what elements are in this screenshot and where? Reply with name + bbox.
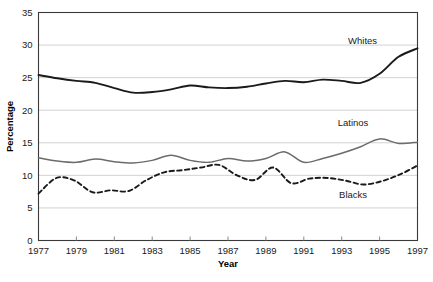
y-axis-tick-label: 35 <box>22 7 33 18</box>
x-axis-tick-label: 1989 <box>255 245 276 256</box>
x-axis-tick-label: 1997 <box>407 245 428 256</box>
y-axis-tick-label: 30 <box>22 39 33 50</box>
y-axis-tick-label: 25 <box>22 72 33 83</box>
x-axis-tick-label: 1991 <box>293 245 314 256</box>
y-axis-title: Percentage <box>4 101 15 152</box>
series-label-latinos: Latinos <box>338 117 369 128</box>
y-axis-tick-label: 10 <box>22 170 33 181</box>
y-axis-tick-label: 20 <box>22 105 33 116</box>
x-axis-tick-label: 1983 <box>142 245 163 256</box>
x-axis-tick-label: 1985 <box>180 245 201 256</box>
x-axis-tick-label: 1977 <box>28 245 49 256</box>
x-axis-tick-label: 1981 <box>104 245 125 256</box>
x-axis-tick-label: 1987 <box>217 245 238 256</box>
chart-canvas: 0510152025303519771979198119831985198719… <box>0 0 433 282</box>
x-axis-tick-label: 1995 <box>369 245 390 256</box>
y-axis-tick-label: 5 <box>27 202 32 213</box>
x-axis-tick-label: 1993 <box>331 245 352 256</box>
unemployment-rate-line-chart: 0510152025303519771979198119831985198719… <box>0 0 433 282</box>
x-axis-tick-label: 1979 <box>66 245 87 256</box>
x-axis-title: Year <box>218 258 238 269</box>
series-label-blacks: Blacks <box>339 189 367 200</box>
y-axis-tick-label: 15 <box>22 137 33 148</box>
series-label-whites: Whites <box>348 35 377 46</box>
series-line-whites <box>39 48 418 93</box>
